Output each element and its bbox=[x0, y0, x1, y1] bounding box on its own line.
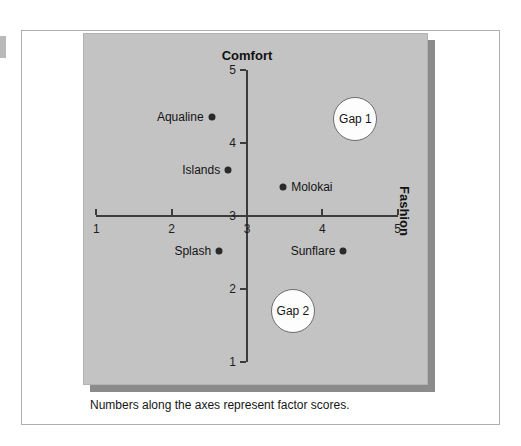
data-point-label: Molokai bbox=[291, 180, 332, 194]
x-tick-label: 1 bbox=[93, 222, 100, 236]
figure-caption: Numbers along the axes represent factor … bbox=[90, 398, 349, 412]
gap-annotation-label: Gap 2 bbox=[277, 304, 310, 318]
x-tick-mark bbox=[95, 209, 97, 215]
y-tick-mark bbox=[240, 69, 246, 71]
y-tick-mark bbox=[240, 361, 246, 363]
x-tick-label: 4 bbox=[319, 222, 326, 236]
x-tick-mark bbox=[171, 209, 173, 215]
x-tick-mark bbox=[321, 209, 323, 215]
y-tick-mark bbox=[240, 288, 246, 290]
y-tick-label: 3 bbox=[229, 209, 236, 223]
y-tick-label: 1 bbox=[229, 355, 236, 369]
y-tick-label: 4 bbox=[229, 136, 236, 150]
x-tick-mark bbox=[246, 209, 248, 215]
x-tick-label: 5 bbox=[394, 222, 401, 236]
data-point bbox=[280, 183, 287, 190]
gap-annotation-circle: Gap 1 bbox=[333, 97, 377, 141]
data-point-label: Islands bbox=[182, 163, 220, 177]
y-tick-mark bbox=[240, 215, 246, 217]
data-point bbox=[340, 248, 347, 255]
x-axis-line bbox=[96, 215, 397, 217]
data-point-label: Splash bbox=[174, 244, 211, 258]
x-tick-label: 2 bbox=[168, 222, 175, 236]
x-tick-label: 3 bbox=[244, 222, 251, 236]
data-point-label: Aqualine bbox=[157, 110, 204, 124]
y-tick-label: 2 bbox=[229, 282, 236, 296]
scan-edge-artifact bbox=[0, 36, 6, 58]
data-point bbox=[208, 114, 215, 121]
data-point bbox=[225, 167, 232, 174]
plot-panel bbox=[83, 33, 428, 385]
y-tick-label: 5 bbox=[229, 63, 236, 77]
data-point-label: Sunflare bbox=[291, 244, 336, 258]
data-point bbox=[216, 248, 223, 255]
y-tick-mark bbox=[240, 142, 246, 144]
x-tick-mark bbox=[397, 209, 399, 215]
gap-annotation-circle: Gap 2 bbox=[271, 289, 315, 333]
perceptual-map-figure: Comfort Fashion 1234512345AqualineIsland… bbox=[0, 0, 521, 446]
gap-annotation-label: Gap 1 bbox=[339, 112, 372, 126]
y-axis-title: Comfort bbox=[222, 48, 273, 63]
